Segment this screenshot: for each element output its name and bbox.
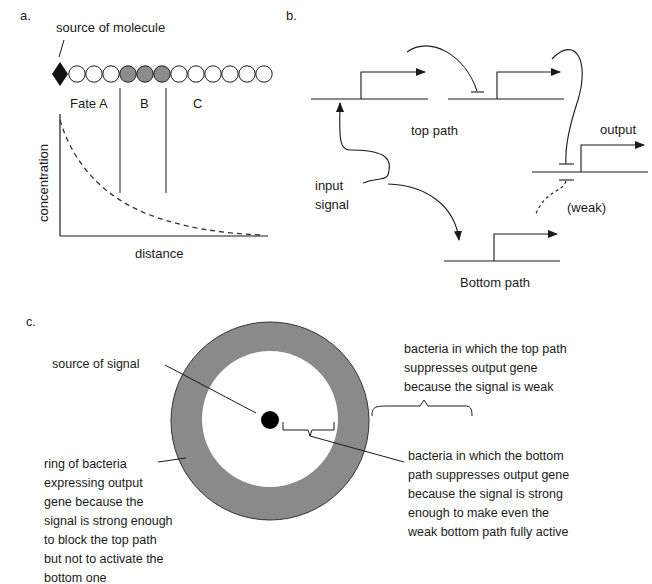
cell-fate-c [256,66,272,82]
bottom-right-line-4: enough to make even the [408,506,549,520]
cell-row [69,66,272,82]
input-to-bottom-curve [388,184,459,240]
panel-a-label: a. [20,8,31,23]
source-of-signal-label: source of signal [52,357,140,371]
figure: a. source of molecule Fate A B C [0,0,652,584]
left-line-1: ring of bacteria [44,457,127,471]
top-path-label: top path [411,123,458,138]
output-label: output [600,122,637,137]
left-line-5: to block the top path [44,533,157,547]
top-right-line-1: bacteria in which the top path [404,342,567,356]
source-diamond-icon [52,62,68,86]
weak-repression-curve [535,181,566,216]
outer-brace [372,400,472,416]
repression-arc-1 [407,46,477,91]
bottom-path-label: Bottom path [460,275,530,290]
fate-b-label: B [140,96,149,111]
input-to-top-curve [340,107,390,183]
cell-fate-c [188,66,204,82]
bottom-right-line-5: weak bottom path fully active [407,525,569,539]
cell-fate-c [239,66,255,82]
y-axis-label: concentration [36,144,51,222]
left-line-6: but not to activate the [44,552,164,566]
bottom-promoter-arrow [494,234,557,261]
cell-fate-a [103,66,119,82]
source-pointer-line [59,40,64,57]
cell-fate-a [86,66,102,82]
repression-arc-2 [552,50,582,164]
panel-a: a. source of molecule Fate A B C [20,8,272,261]
cell-fate-c [205,66,221,82]
left-line-2: expressing output [44,476,143,490]
cell-fate-b [154,66,170,82]
input-label-line1: input [315,178,344,193]
output-promoter-arrow [581,145,644,172]
top-right-line-3: because the signal is weak [404,380,554,394]
concentration-curve [60,120,260,235]
fate-a-label: Fate A [70,96,108,111]
gene-2-promoter-arrow [497,72,560,99]
left-line-3: gene because the [44,495,143,509]
gene-1-promoter-arrow [361,72,425,99]
weak-label: (weak) [567,200,606,215]
top-right-line-2: suppresses output gene [404,361,537,375]
signal-source-dot [261,411,279,429]
cell-fate-b [120,66,136,82]
bottom-right-line-1: bacteria in which the bottom [408,449,564,463]
panel-c: c. source of signal bacteria in which th… [26,315,569,584]
cell-fate-a [69,66,85,82]
left-line-4: signal is strong enough [44,514,173,528]
source-of-molecule-label: source of molecule [56,20,165,35]
panel-b: b. top path output input signal (weak) [286,8,648,290]
panel-b-label: b. [286,8,297,23]
x-axis-label: distance [135,246,183,261]
fate-c-label: C [193,96,202,111]
panel-c-label: c. [26,315,36,329]
input-label-line2: signal [315,197,349,212]
cell-fate-b [137,66,153,82]
left-line-7: bottom one [44,571,107,584]
bottom-right-line-3: because the signal is strong [408,487,563,501]
bottom-right-line-2: path suppresses output gene [408,468,569,482]
cell-fate-c [171,66,187,82]
cell-fate-c [222,66,238,82]
